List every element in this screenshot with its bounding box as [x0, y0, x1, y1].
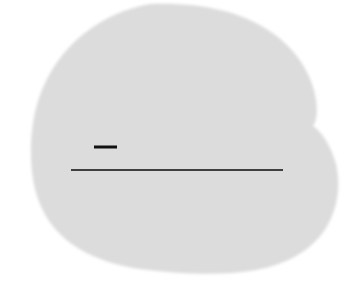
scanned-blob-figure: [0, 0, 364, 282]
long-rule-mark: [71, 169, 283, 171]
short-dash-mark: [94, 146, 117, 149]
figure-canvas: [0, 0, 364, 282]
